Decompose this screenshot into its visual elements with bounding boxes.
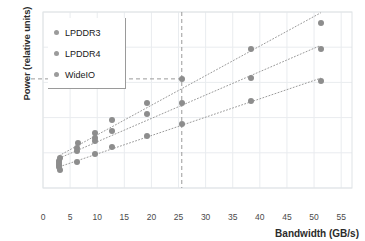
data-point — [75, 140, 81, 146]
data-point — [144, 100, 150, 106]
x-axis-tick-label: 0 — [41, 212, 46, 222]
x-axis-tick-label: 15 — [120, 212, 129, 222]
x-axis-tick-label: 50 — [309, 212, 318, 222]
data-point — [74, 159, 80, 165]
x-axis-tick-label: 10 — [92, 212, 101, 222]
x-axis-tick-label: 45 — [282, 212, 291, 222]
data-point — [179, 76, 185, 82]
legend-marker-icon — [54, 30, 59, 35]
x-axis-title: Bandwidth (GB/s) — [275, 228, 359, 239]
x-axis-tick-label: 25 — [174, 212, 183, 222]
x-axis-tick-label: 20 — [147, 212, 156, 222]
x-axis-tick-label: 30 — [201, 212, 210, 222]
legend-item-label: LPDDR3 — [65, 28, 101, 38]
x-axis-tick-label: 5 — [68, 212, 73, 222]
data-point — [179, 100, 185, 106]
legend-item-lpddr3[interactable]: LPDDR3 — [50, 22, 123, 43]
legend-marker-icon — [54, 51, 59, 56]
legend-marker-icon — [54, 72, 59, 77]
data-point — [248, 98, 254, 104]
x-axis-tick-label: 55 — [336, 212, 345, 222]
data-point — [92, 135, 98, 141]
legend-item-label: LPDDR4 — [65, 49, 101, 59]
data-point — [109, 117, 115, 123]
x-axis-tick-label: 35 — [228, 212, 237, 222]
data-point — [318, 78, 324, 84]
data-point — [74, 148, 80, 154]
data-point — [248, 46, 254, 52]
data-point — [144, 133, 150, 139]
data-point — [144, 111, 150, 117]
data-point — [318, 46, 324, 52]
data-point — [248, 75, 254, 81]
data-point — [109, 144, 115, 150]
x-axis-tick-label: 40 — [255, 212, 264, 222]
legend-item-lpddr4[interactable]: LPDDR4 — [50, 43, 123, 64]
legend-item-label: WideIO — [65, 70, 95, 80]
data-point — [56, 160, 62, 166]
y-axis-title: Power (relative units) — [21, 0, 32, 124]
legend: LPDDR3 LPDDR4 WideIO — [48, 18, 126, 89]
data-point — [57, 167, 63, 173]
chart-figure: Power (relative units) Bandwidth (GB/s) … — [0, 0, 365, 241]
data-point — [179, 121, 185, 127]
data-point — [109, 128, 115, 134]
data-point — [92, 151, 98, 157]
legend-item-wideio[interactable]: WideIO — [50, 64, 123, 85]
data-point — [318, 20, 324, 26]
